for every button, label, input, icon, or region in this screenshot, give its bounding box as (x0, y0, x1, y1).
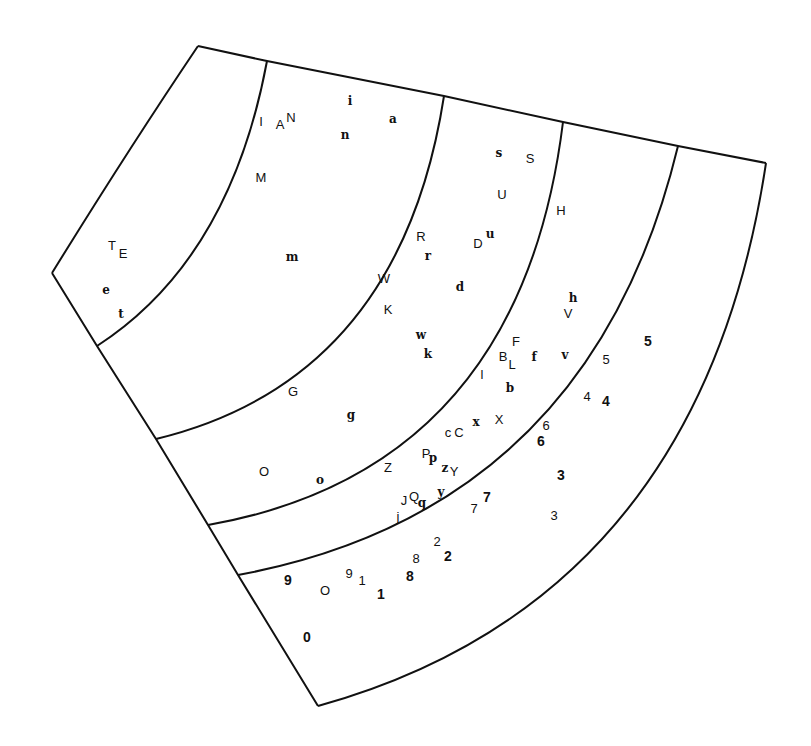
glyph-label: N (286, 111, 295, 124)
glyph-label: 4 (602, 394, 610, 408)
arc-1-inner-boundary (52, 46, 198, 273)
annular-sector-figure (0, 0, 811, 746)
glyph-label: g (347, 409, 355, 421)
arc-2 (97, 61, 267, 346)
glyph-label: 5 (644, 334, 652, 348)
glyph-label: 6 (542, 419, 549, 432)
glyph-label: p (429, 452, 437, 464)
glyph-label: z (442, 462, 449, 474)
glyph-label: K (384, 303, 393, 316)
glyph-label: W (378, 272, 390, 285)
glyph-label: 9 (284, 573, 292, 587)
glyph-label: 2 (433, 535, 440, 548)
glyph-label: T (108, 239, 116, 252)
glyph-label: w (416, 329, 426, 341)
arc-5 (238, 146, 678, 575)
glyph-label: I (259, 115, 263, 128)
glyph-label: A (276, 118, 285, 131)
glyph-label: u (486, 228, 495, 240)
glyph-label: 5 (602, 353, 609, 366)
glyph-label: h (569, 292, 578, 304)
glyph-label: t (118, 308, 124, 320)
arc-3 (156, 96, 444, 439)
glyph-label: 3 (550, 509, 557, 522)
glyph-label: B (499, 350, 508, 363)
glyph-label: 7 (470, 502, 477, 515)
glyph-label: O (320, 584, 330, 597)
glyph-label: k (424, 348, 432, 360)
glyph-label: Z (384, 461, 392, 474)
glyph-label: 1 (377, 587, 385, 601)
glyph-label: S (526, 152, 535, 165)
glyph-label: 2 (444, 549, 452, 563)
glyph-label: f (531, 351, 536, 363)
glyph-label: y (438, 486, 445, 498)
glyph-label: 6 (537, 434, 545, 448)
glyph-label: 1 (358, 574, 365, 587)
glyph-label: r (425, 250, 431, 262)
glyph-label: 7 (483, 490, 491, 504)
glyph-label: l (481, 368, 484, 381)
glyph-label: G (288, 385, 298, 398)
glyph-label: J (401, 494, 408, 507)
glyph-label: n (341, 129, 350, 141)
glyph-label: v (562, 349, 569, 361)
glyph-label: a (389, 113, 397, 125)
glyph-label: s (496, 147, 503, 159)
glyph-label: 8 (412, 552, 419, 565)
glyph-label: c (445, 426, 452, 439)
glyph-label: j (397, 510, 400, 523)
glyph-label: 0 (303, 630, 311, 644)
glyph-label: F (512, 335, 520, 348)
glyph-label: 9 (345, 567, 352, 580)
glyph-label: x (472, 416, 479, 428)
glyph-label: i (348, 95, 353, 107)
glyph-label: e (102, 284, 110, 296)
glyph-label: X (495, 413, 504, 426)
glyph-label: C (454, 426, 463, 439)
glyph-label: 4 (583, 390, 590, 403)
glyph-label: U (497, 188, 506, 201)
glyph-label: o (316, 474, 324, 486)
glyph-label: R (416, 230, 425, 243)
left-radial-edge (52, 273, 318, 706)
glyph-label: L (508, 358, 515, 371)
glyph-label: M (256, 171, 267, 184)
top-radial-edge (198, 46, 766, 163)
glyph-label: q (418, 497, 426, 509)
glyph-label: D (473, 237, 482, 250)
glyph-label: Y (450, 465, 459, 478)
glyph-label: E (119, 247, 128, 260)
glyph-label: b (506, 382, 514, 394)
glyph-label: V (564, 307, 573, 320)
glyph-label: m (286, 251, 299, 263)
glyph-label: 3 (557, 468, 565, 482)
glyph-label: 8 (406, 569, 414, 583)
glyph-label: O (259, 465, 269, 478)
glyph-label: H (556, 204, 565, 217)
glyph-label: d (456, 281, 464, 293)
